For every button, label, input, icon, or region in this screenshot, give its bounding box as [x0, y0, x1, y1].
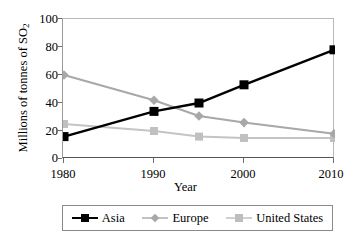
x-tick-mark-1980 — [63, 158, 64, 163]
legend-label-europe: Europe — [172, 211, 208, 226]
y-axis-title: Millions of tonnes of SO2 — [13, 3, 33, 173]
y-tick-label-80: 80 — [24, 41, 58, 53]
chart-legend: Asia Europe United States — [62, 205, 333, 231]
legend-item-asia[interactable]: Asia — [72, 211, 125, 226]
legend-marker-diamond-europe — [151, 214, 159, 222]
marker-europe-2000 — [239, 118, 249, 128]
y-tick-label-60: 60 — [24, 69, 58, 81]
chart-figure: Millions of tonnes of SO2 100 80 60 40 2… — [0, 0, 351, 245]
x-axis-title: Year — [0, 180, 351, 195]
marker-asia-1990 — [150, 107, 159, 116]
marker-united-states-1980 — [63, 120, 68, 128]
legend-label-united-states: United States — [256, 211, 323, 226]
x-tick-label-1990: 1990 — [123, 167, 183, 181]
x-tick-mark-2010 — [333, 158, 334, 163]
x-tick-label-1980: 1980 — [33, 167, 93, 181]
legend-marker-square-united-states — [235, 214, 243, 222]
chart-canvas — [63, 19, 335, 159]
marker-united-states-2000 — [240, 134, 248, 142]
legend-swatch-united-states — [226, 212, 252, 224]
legend-swatch-asia — [72, 212, 98, 224]
legend-item-europe[interactable]: Europe — [142, 211, 208, 226]
legend-marker-square-asia — [81, 214, 89, 222]
y-tick-label-20: 20 — [24, 125, 58, 137]
x-tick-mark-1990 — [153, 158, 154, 163]
marker-asia-2000 — [240, 80, 249, 89]
marker-europe-1995 — [194, 111, 204, 121]
x-tick-label-2010: 2010 — [301, 167, 351, 181]
marker-europe-1990 — [149, 95, 159, 105]
marker-asia-1995 — [195, 99, 204, 108]
legend-label-asia: Asia — [102, 211, 125, 226]
y-tick-label-100: 100 — [24, 13, 58, 25]
y-tick-label-40: 40 — [24, 97, 58, 109]
marker-europe-1980 — [63, 70, 69, 80]
y-tick-label-0: 0 — [24, 152, 58, 164]
marker-asia-2010 — [330, 45, 336, 54]
plot-area — [62, 18, 334, 158]
marker-united-states-1990 — [150, 127, 158, 135]
marker-asia-1980 — [63, 132, 69, 141]
legend-item-united-states[interactable]: United States — [226, 211, 323, 226]
x-tick-mark-2000 — [243, 158, 244, 163]
series-united-states — [63, 120, 335, 142]
legend-swatch-europe — [142, 212, 168, 224]
marker-united-states-1995 — [195, 133, 203, 141]
series-line-asia — [64, 50, 334, 137]
x-tick-label-2000: 2000 — [213, 167, 273, 181]
y-tick-mark-0 — [57, 158, 62, 159]
